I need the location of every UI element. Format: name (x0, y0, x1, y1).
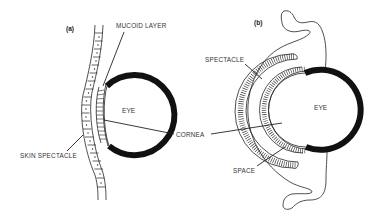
panel-b-label: (b) (254, 19, 262, 27)
panel-b: (b) EYE SPECTACLE SPACE (205, 11, 361, 210)
space-label: SPACE (233, 167, 255, 174)
skin-spectacle-label: SKIN SPECTACLE (20, 152, 77, 159)
cornea-label: CORNEA (176, 131, 205, 138)
eye-a-wall (107, 75, 174, 155)
eye-b-label: EYE (314, 104, 328, 111)
skin-column-left-edge (82, 25, 98, 200)
panel-a-label: (a) (66, 25, 74, 33)
skin-column-right-edge (91, 25, 106, 200)
space-leader (257, 147, 285, 166)
cornea-callout: CORNEA (104, 120, 282, 138)
eye-a-cornea-surface (104, 86, 109, 146)
spectacle-eye-diagram: (a) (0, 0, 379, 219)
skin-spectacle-leader (67, 135, 83, 151)
spectacle-label: SPECTACLE (205, 56, 244, 63)
panel-a: (a) (20, 22, 174, 200)
mucoid-layer-label: MUCOID LAYER (116, 22, 167, 29)
cornea-leader-a (104, 120, 174, 134)
skin-cells (82, 33, 106, 187)
eye-a-label: EYE (122, 107, 136, 114)
